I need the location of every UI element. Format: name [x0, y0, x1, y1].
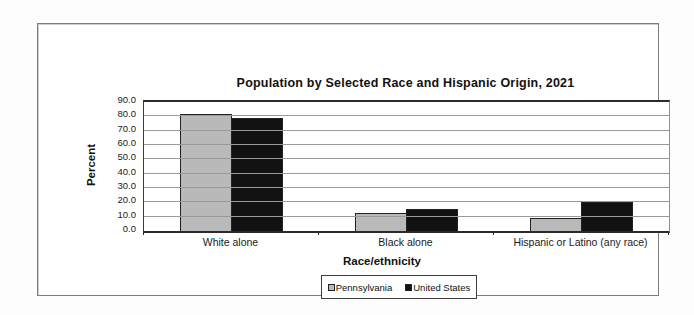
x-axis-tick [143, 231, 144, 235]
bar-pennsylvania [530, 218, 582, 231]
gridline [144, 216, 669, 217]
x-axis-tick [318, 231, 319, 235]
gridline [144, 201, 669, 202]
chart-title: Population by Selected Race and Hispanic… [143, 76, 668, 90]
y-axis-tick-label: 60.0 [76, 137, 136, 148]
legend-item: Pennsylvania [328, 282, 393, 293]
legend-label: Pennsylvania [336, 282, 393, 293]
legend-swatch-icon [405, 284, 412, 291]
bar-group [494, 102, 669, 231]
gridline [144, 130, 669, 131]
legend-item: United States [405, 282, 470, 293]
y-axis-tick-label: 90.0 [76, 94, 136, 105]
legend-swatch-icon [328, 284, 335, 291]
y-axis-tick-label: 30.0 [76, 180, 136, 191]
y-axis-tick-label: 20.0 [76, 194, 136, 205]
bar-united-states [231, 118, 283, 231]
bar-group [144, 102, 319, 231]
bar-united-states [406, 209, 458, 231]
gridline [144, 158, 669, 159]
category-label: Black alone [318, 236, 493, 248]
chart-outer-frame: Population by Selected Race and Hispanic… [37, 23, 659, 296]
category-label: Hispanic or Latino (any race) [493, 236, 668, 248]
gridline [144, 187, 669, 188]
bar-groups [144, 102, 669, 231]
x-axis-category-labels: White aloneBlack aloneHispanic or Latino… [143, 236, 668, 248]
gridline [144, 144, 669, 145]
x-axis-tick [493, 231, 494, 235]
y-axis-tick-labels: 0.010.020.030.040.050.060.070.080.090.0 [76, 100, 136, 229]
bar-group [319, 102, 494, 231]
x-axis-tick [668, 231, 669, 235]
y-axis-tick-label: 80.0 [76, 108, 136, 119]
scanned-page: Population by Selected Race and Hispanic… [0, 0, 694, 315]
y-axis-tick-label: 70.0 [76, 123, 136, 134]
y-axis-tick-label: 50.0 [76, 151, 136, 162]
category-label: White alone [143, 236, 318, 248]
y-axis-tick-label: 0.0 [76, 223, 136, 234]
gridline [144, 173, 669, 174]
y-axis-tick-label: 40.0 [76, 166, 136, 177]
y-axis-tick-label: 10.0 [76, 209, 136, 220]
legend: PennsylvaniaUnited States [321, 275, 477, 299]
plot-area [143, 100, 670, 233]
legend-label: United States [413, 282, 470, 293]
x-axis-title: Race/ethnicity [143, 255, 621, 267]
gridline [144, 115, 669, 116]
